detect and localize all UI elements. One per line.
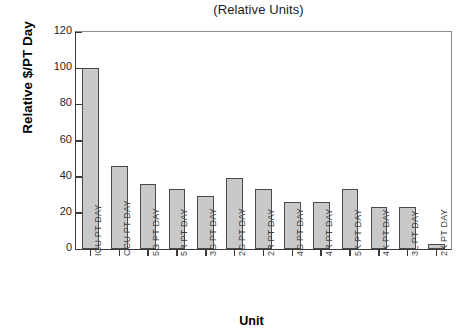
x-category-label: 4G PT DAY xyxy=(295,166,305,256)
x-category-label: 2K PT DAY xyxy=(439,166,449,256)
x-category-label: 5K PT DAY xyxy=(353,166,363,256)
y-tick-label: 120 xyxy=(54,24,72,36)
x-tick-mark xyxy=(205,250,207,256)
x-tick-mark xyxy=(349,250,351,256)
x-tick-mark xyxy=(263,250,265,256)
y-tick-label: 0 xyxy=(66,241,72,253)
x-tick-mark xyxy=(147,250,149,256)
x-tick-mark xyxy=(436,250,438,256)
x-tick-mark xyxy=(90,250,92,256)
x-category-label: 5R PT DAY xyxy=(179,166,189,256)
x-tick-mark xyxy=(176,250,178,256)
x-category-label: 2G PT DAY xyxy=(237,166,247,256)
y-tick-label: 60 xyxy=(60,133,72,145)
y-tick-label: 80 xyxy=(60,96,72,108)
x-category-label: 3L PT DAY xyxy=(410,166,420,256)
chart-title: (Relative Units) xyxy=(0,2,473,17)
x-category-label: ICU PT DAY xyxy=(93,166,103,256)
y-tick-label: 20 xyxy=(60,205,72,217)
x-tick-mark xyxy=(234,250,236,256)
y-tick-label: 100 xyxy=(54,60,72,72)
x-tick-mark xyxy=(407,250,409,256)
x-category-label: CCU PT DAY xyxy=(122,166,132,256)
x-tick-mark xyxy=(378,250,380,256)
x-category-label: 2R PT DAY xyxy=(266,166,276,256)
x-axis-title: Unit xyxy=(0,314,473,328)
y-tick-label: 40 xyxy=(60,169,72,181)
x-category-label: 5G PT DAY xyxy=(151,166,161,256)
x-category-label: 4R PT DAY xyxy=(324,166,334,256)
chart-figure: (Relative Units) Relative $/PT Day 0 20 … xyxy=(0,0,473,334)
x-tick-mark xyxy=(320,250,322,256)
bar-series xyxy=(76,32,451,249)
x-category-label: 4K PT DAY xyxy=(381,166,391,256)
x-category-label: 3G PT DAY xyxy=(208,166,218,256)
x-tick-mark xyxy=(292,250,294,256)
x-tick-mark xyxy=(119,250,121,256)
y-axis-title: Relative $/PT Day xyxy=(20,0,35,163)
